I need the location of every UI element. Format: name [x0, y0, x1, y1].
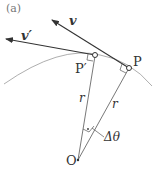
label-p: P [133, 55, 142, 68]
diagram-graphics [0, 0, 154, 176]
label-r-right: r [112, 98, 118, 110]
label-v: v [69, 14, 77, 27]
delta-theta-leader [92, 128, 104, 137]
panel-label: (a) [6, 3, 21, 14]
point-o [77, 159, 79, 161]
label-p-prime: P′ [75, 62, 87, 75]
velocity-v-prime-arrow [6, 39, 95, 55]
label-r-left: r [79, 92, 85, 104]
label-v-prime: v′ [21, 29, 32, 42]
label-delta-theta: Δθ [104, 131, 120, 143]
label-o: O [66, 154, 77, 167]
circular-motion-diagram: (a) v v′ P P′ r r O Δθ [0, 0, 154, 176]
angle-dot [87, 128, 89, 130]
point-p-prime [93, 53, 98, 58]
point-p [127, 66, 132, 71]
